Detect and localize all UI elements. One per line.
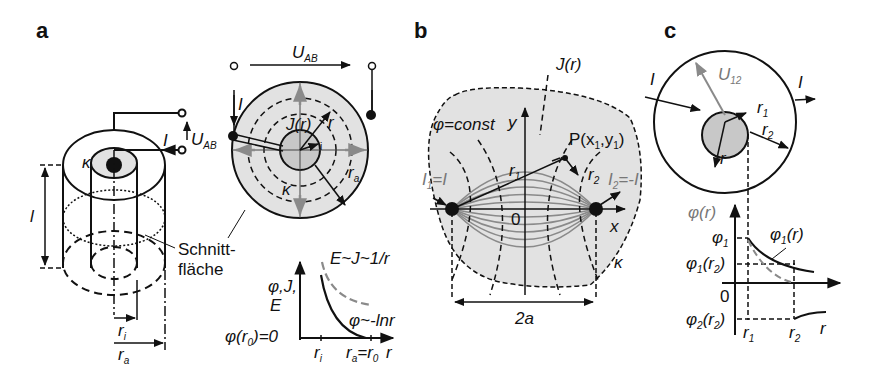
c-voltage-label: U12	[718, 65, 742, 86]
panel-label-b: b	[414, 18, 427, 43]
panel-label-c: c	[664, 18, 676, 43]
c-phi1-tick: φ1	[712, 228, 729, 249]
cross-section-diagram	[228, 63, 376, 239]
c-r1-label: r1	[757, 98, 768, 119]
c-curve-label: φ1(r)	[770, 225, 804, 246]
r-inner-label: ri	[118, 321, 127, 342]
b-density-label: J(r)	[555, 55, 581, 74]
b-yaxis-label: y	[507, 113, 518, 132]
graph-a-xtick-ra: ra=r0	[346, 343, 379, 364]
panel-a: a	[30, 18, 396, 366]
c-xtick-r1: r1	[743, 323, 754, 344]
b-kappa-label: κ	[614, 253, 624, 272]
point-p	[562, 155, 568, 161]
section-label-1: Schnitt-	[178, 240, 236, 259]
r-outer-label: ra	[118, 345, 130, 366]
b-i1-label: I1=I	[422, 170, 447, 191]
figure-svg: a	[0, 0, 870, 385]
graph-a-origin-label: φ(r0)=0	[225, 327, 279, 348]
graph-a-dashed-curve-label: E~J~1/r	[330, 249, 391, 268]
c-zero-tick: 0	[720, 287, 729, 306]
graph-a-ylabel-2: E	[270, 296, 282, 315]
current-label: I	[163, 131, 168, 150]
panel-label-a: a	[36, 18, 49, 43]
cs-inner-radius-label: i	[320, 141, 322, 152]
panel-b: b	[414, 18, 641, 328]
electrode-1	[445, 202, 459, 216]
c-phi2-r2-tick: φ2(r2)	[686, 310, 725, 331]
graph-a-ylabel-1: φ,J,	[268, 277, 297, 296]
graph-a-xaxis-label: r	[386, 343, 393, 362]
c-xaxis-label: r	[820, 319, 827, 338]
c-xtick-r2: r2	[789, 323, 801, 344]
spherical-electrode-diagram	[645, 51, 815, 320]
cs-current-label: I	[238, 95, 243, 114]
c-r2-label: r2	[762, 120, 774, 141]
c-current-in-label: I	[650, 70, 655, 89]
cs-density-label: J(r)	[285, 115, 311, 134]
c-graph-ylabel: φ(r)	[688, 203, 716, 222]
section-label-2: fläche	[178, 260, 223, 279]
length-label: l	[30, 207, 35, 226]
b-xaxis-label: x	[609, 217, 619, 236]
voltage-label: UAB	[191, 130, 217, 151]
c-phi1-r2-tick: φ1(r2)	[686, 254, 725, 275]
figure: a	[0, 0, 870, 385]
c-current-out-label: I	[798, 73, 803, 92]
b-distance-label: 2a	[514, 309, 534, 328]
graph-a-xtick-ri: ri	[314, 343, 323, 364]
b-equipotential-label: φ=const	[433, 115, 496, 134]
graph-a-solid-curve-label: φ~-lnr	[349, 311, 396, 330]
cs-voltage-label: UAB	[292, 43, 318, 64]
panel-c: c U12 I I r1 r2 r	[645, 18, 840, 344]
electrode-2	[589, 202, 603, 216]
b-origin-label: 0	[511, 210, 520, 229]
b-i2-label: I2=-I	[608, 170, 639, 191]
